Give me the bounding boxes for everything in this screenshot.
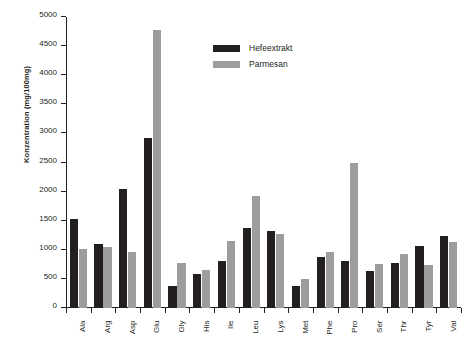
x-axis-label: Glu — [152, 321, 161, 355]
bar — [202, 270, 210, 308]
y-axis-line — [66, 17, 67, 308]
x-axis-label: Tyr — [423, 321, 432, 355]
y-tick-label: 500 — [44, 272, 57, 281]
x-axis-label: Thr — [399, 321, 408, 355]
bar — [449, 242, 457, 308]
bar — [177, 263, 185, 308]
y-tick: 4500 — [61, 45, 66, 46]
bar — [400, 254, 408, 308]
x-axis-label: Pro — [349, 321, 358, 355]
x-tick — [387, 308, 388, 313]
x-tick — [436, 308, 437, 313]
bar — [193, 274, 201, 308]
bar — [440, 236, 448, 308]
y-tick: 3500 — [61, 103, 66, 104]
bar — [79, 249, 87, 308]
legend-item: Hefeextrakt — [213, 41, 292, 55]
x-axis-label: Phe — [325, 321, 334, 355]
y-tick: 500 — [61, 278, 66, 279]
y-axis-title: Konzentration (mg/100mg) — [22, 35, 31, 195]
y-tick-label: 5000 — [39, 10, 57, 19]
x-axis-label: Ala — [78, 321, 87, 355]
bar — [415, 246, 423, 308]
bar — [301, 279, 309, 308]
bar — [391, 263, 399, 308]
legend-label: Parmesan — [249, 59, 288, 69]
y-tick: 2000 — [61, 191, 66, 192]
x-tick — [165, 308, 166, 313]
bar — [153, 30, 161, 308]
bar — [252, 196, 260, 308]
bar — [366, 271, 374, 308]
bar — [292, 286, 300, 308]
legend-swatch — [213, 61, 240, 68]
bar — [424, 265, 432, 308]
bar — [227, 241, 235, 309]
x-axis-label: Asp — [127, 321, 136, 355]
x-tick — [189, 308, 190, 313]
bar — [243, 228, 251, 308]
bar — [350, 163, 358, 309]
y-tick-label: 4000 — [39, 68, 57, 77]
bar — [276, 234, 284, 308]
x-tick — [214, 308, 215, 313]
y-tick-label: 1000 — [39, 243, 57, 252]
x-tick — [115, 308, 116, 313]
x-tick — [66, 308, 67, 313]
y-tick-label: 2000 — [39, 185, 57, 194]
bar — [218, 261, 226, 308]
bar — [341, 261, 349, 308]
y-tick-label: 1500 — [39, 214, 57, 223]
x-tick — [264, 308, 265, 313]
bar — [317, 257, 325, 308]
y-tick-label: 0 — [53, 301, 57, 310]
x-tick — [313, 308, 314, 313]
x-tick — [140, 308, 141, 313]
legend-swatch — [213, 45, 240, 52]
y-tick-label: 2500 — [39, 156, 57, 165]
x-tick — [412, 308, 413, 313]
x-tick — [288, 308, 289, 313]
bar — [128, 252, 136, 308]
y-tick: 1500 — [61, 220, 66, 221]
y-tick: 3000 — [61, 132, 66, 133]
x-tick — [461, 308, 462, 313]
x-tick — [362, 308, 363, 313]
x-axis-label: Lys — [275, 321, 284, 355]
x-axis-label: Ser — [374, 321, 383, 355]
bar — [70, 219, 78, 308]
y-tick: 1000 — [61, 249, 66, 250]
bar — [326, 252, 334, 308]
y-tick-label: 3500 — [39, 97, 57, 106]
bar — [103, 247, 111, 308]
bar — [94, 244, 102, 308]
y-tick: 2500 — [61, 162, 66, 163]
x-tick — [338, 308, 339, 313]
bar-chart: Konzentration (mg/100mg) 050010001500200… — [0, 0, 467, 357]
bar — [119, 189, 127, 308]
x-axis-label: Val — [448, 321, 457, 355]
y-tick-label: 3000 — [39, 126, 57, 135]
y-tick-label: 4500 — [39, 39, 57, 48]
y-tick: 5000 — [61, 16, 66, 17]
x-axis-label: Leu — [251, 321, 260, 355]
bar — [144, 138, 152, 308]
x-axis-label: Arg — [103, 321, 112, 355]
bar — [375, 264, 383, 308]
chart-legend: HefeextraktParmesan — [213, 41, 292, 73]
legend-label: Hefeextrakt — [249, 43, 292, 53]
x-tick — [91, 308, 92, 313]
y-tick: 4000 — [61, 74, 66, 75]
x-axis-label: Met — [300, 321, 309, 355]
bar — [267, 231, 275, 308]
legend-item: Parmesan — [213, 57, 292, 71]
x-tick — [239, 308, 240, 313]
x-axis-label: His — [201, 321, 210, 355]
x-axis-label: Gly — [177, 321, 186, 355]
bar — [168, 286, 176, 308]
x-axis-label: Ile — [226, 321, 235, 355]
